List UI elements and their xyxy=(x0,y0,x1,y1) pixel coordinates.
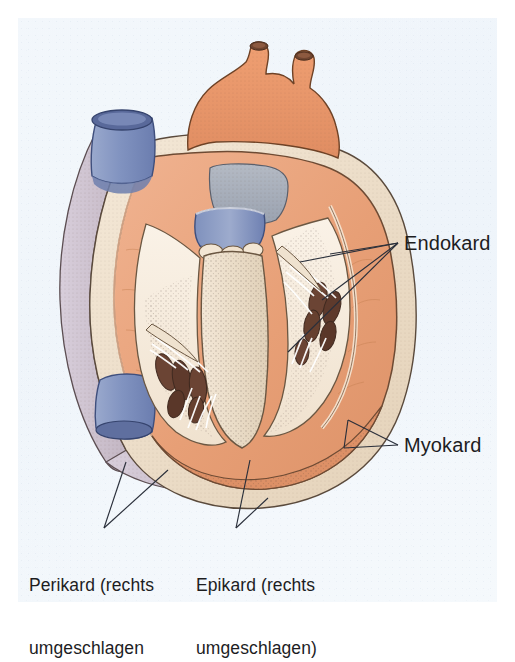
caption-epikard-line1: Epikard (rechts xyxy=(196,575,317,596)
caption-perikard-line2: umgeschlagen xyxy=(29,638,154,659)
caption-epikard-line2: umgeschlagen) xyxy=(196,638,317,659)
caption-perikard: Perikard (rechts umgeschlagen xyxy=(29,533,154,662)
label-endokard: Endokard xyxy=(404,232,490,255)
superior-vena-cava-stump xyxy=(91,110,155,194)
caption-perikard-line1: Perikard (rechts xyxy=(29,575,154,596)
label-myokard: Myokard xyxy=(404,434,481,457)
aorta-pulmonary-trunk xyxy=(188,42,340,158)
caption-epikard: Epikard (rechts umgeschlagen) xyxy=(196,533,317,662)
